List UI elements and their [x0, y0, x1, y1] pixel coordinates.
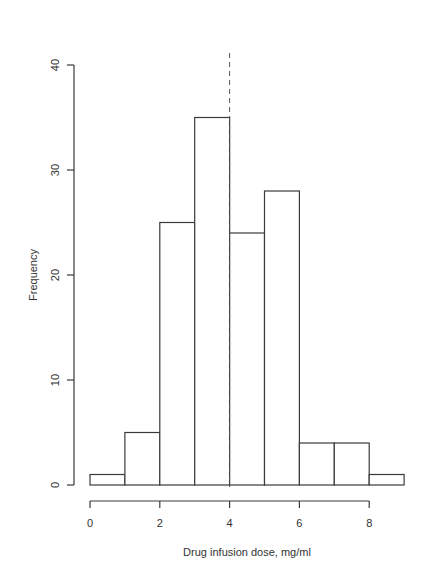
x-tick-label: 2 — [157, 517, 163, 529]
histogram-bar — [230, 233, 265, 485]
x-tick-label: 6 — [296, 517, 302, 529]
histogram-chart: 010203040 02468 Frequency Drug infusion … — [0, 0, 438, 578]
histogram-bar — [299, 443, 334, 485]
histogram-bar — [90, 475, 125, 486]
histogram-bar — [265, 191, 300, 485]
y-tick-label: 30 — [49, 164, 61, 176]
x-tick-label: 0 — [87, 517, 93, 529]
y-tick-label: 0 — [49, 482, 61, 488]
histogram-bar — [195, 118, 230, 486]
y-axis: 010203040 — [49, 59, 74, 488]
x-tick-label: 8 — [366, 517, 372, 529]
histogram-bar — [334, 443, 369, 485]
histogram-bars — [90, 118, 404, 486]
y-tick-label: 20 — [49, 269, 61, 281]
x-axis: 02468 — [87, 501, 372, 529]
y-axis-title: Frequency — [27, 249, 39, 301]
x-tick-label: 4 — [227, 517, 233, 529]
x-axis-title: Drug infusion dose, mg/ml — [183, 546, 311, 558]
histogram-bar — [125, 433, 160, 486]
y-tick-label: 10 — [49, 374, 61, 386]
histogram-bar — [369, 475, 404, 486]
histogram-bar — [160, 223, 195, 486]
y-tick-label: 40 — [49, 59, 61, 71]
